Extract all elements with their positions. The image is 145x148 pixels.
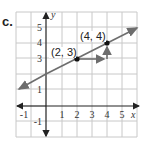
y-tick-label: 5: [37, 22, 42, 33]
y-tick-label: 1: [37, 84, 42, 95]
x-tick-label: 4: [105, 109, 110, 120]
x-tick-label: -1: [20, 109, 28, 120]
x-tick-label: 2: [75, 109, 80, 120]
y-tick-label: 4: [37, 37, 42, 48]
x-axis-label: x: [130, 109, 136, 120]
x-tick-label: 3: [90, 109, 95, 120]
coordinate-plane: -1 1 2 3 4 5 x -1 1 3 4 5 y (2, 3) (4, 4…: [0, 0, 145, 148]
y-axis-label: y: [50, 9, 56, 20]
y-tick-label: -1: [34, 116, 42, 127]
x-tick-label: 5: [120, 109, 125, 120]
x-tick-label: 1: [60, 109, 65, 120]
y-tick-label: 3: [37, 53, 42, 64]
point-label: (4, 4): [80, 30, 106, 42]
point-label: (2, 3): [51, 46, 77, 58]
